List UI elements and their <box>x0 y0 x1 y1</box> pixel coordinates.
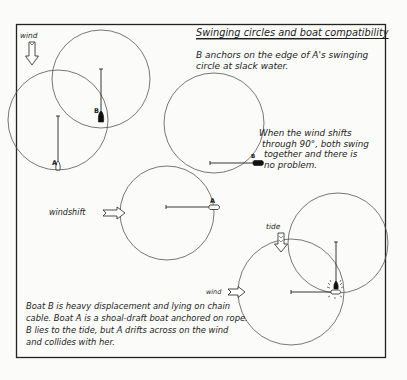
boat-a-label: A <box>52 159 57 167</box>
swinging-circle-b-2 <box>164 73 264 173</box>
windshift-arrow-icon <box>103 207 125 219</box>
intro-text: B anchors on the edge of A's swinging ci… <box>196 50 368 72</box>
boat-a-label-2: A <box>210 197 215 205</box>
panel-1-slack-water <box>8 30 150 170</box>
intro-line-2: circle at slack water. <box>196 61 368 72</box>
caption-line-4: and collides with her. <box>26 337 248 349</box>
wind-label: wind <box>20 31 37 40</box>
swinging-circle-b-3 <box>288 193 388 293</box>
swinging-circle-a-2 <box>120 166 214 260</box>
boat-b-icon <box>98 69 103 122</box>
note-line-2: through 90°, both swing <box>262 139 369 150</box>
caption-line-3: B lies to the tide, but A drifts across … <box>26 325 248 337</box>
caption-line-1: Boat B is heavy displacement and lying o… <box>26 301 248 313</box>
note-line-3: together and there is <box>264 149 369 160</box>
tide-arrow-icon <box>275 233 288 252</box>
caption: Boat B is heavy displacement and lying o… <box>26 301 248 349</box>
panel-3-collision <box>228 193 388 345</box>
wind-arrow-icon <box>26 42 39 65</box>
note-line-4: no problem. <box>264 160 369 171</box>
boat-b-label-2: B <box>251 153 255 159</box>
wind-arrow-icon-3 <box>228 287 245 298</box>
intro-line-1: B anchors on the edge of A's swinging <box>196 50 368 61</box>
boat-a-icon-2 <box>166 205 220 210</box>
caption-line-2: cable. Boat A is a shoal-draft boat anch… <box>26 313 248 325</box>
boat-b-icon-3 <box>334 242 338 289</box>
tide-label: tide <box>266 222 280 231</box>
diagram-title: Swinging circles and boat compatibility <box>196 27 389 39</box>
note-line-1: When the wind shifts <box>259 128 369 139</box>
windshift-note: When the wind shifts through 90°, both s… <box>259 128 369 171</box>
boat-a-icon-3 <box>291 290 341 294</box>
boat-b-icon-2 <box>210 161 264 166</box>
windshift-label: windshift <box>49 208 85 217</box>
wind-label-3: wind <box>206 288 221 296</box>
boat-b-label: B <box>94 107 99 115</box>
panel-2-windshift <box>103 73 264 260</box>
